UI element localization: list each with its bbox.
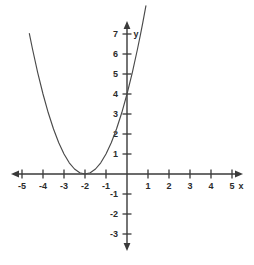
- y-tick-label: -2: [110, 209, 118, 219]
- x-tick-label: 3: [187, 181, 192, 191]
- x-tick-label: -2: [81, 181, 89, 191]
- y-tick-label: -1: [110, 189, 118, 199]
- x-axis-label: x: [238, 181, 243, 191]
- x-tick-label: -3: [60, 181, 68, 191]
- parabola-curve: [29, 6, 146, 174]
- x-tick-label: -4: [39, 181, 47, 191]
- x-axis-right-arrow-icon: [235, 171, 243, 178]
- x-axis-tick-labels: -5 -4 -3 -2 -1 1 2 3 4 5: [18, 181, 235, 191]
- x-axis-left-arrow-icon: [11, 171, 19, 178]
- y-tick-label: 7: [113, 29, 118, 39]
- y-tick-label: -3: [110, 229, 118, 239]
- y-tick-label: 1: [113, 149, 118, 159]
- y-tick-label: 3: [113, 109, 118, 119]
- x-tick-label: 2: [166, 181, 171, 191]
- x-tick-label: 5: [229, 181, 234, 191]
- graph-figure: -5 -4 -3 -2 -1 1 2 3 4 5 7 6 5 4 3 2 1 -…: [0, 0, 254, 265]
- x-tick-label: 1: [145, 181, 150, 191]
- y-axis-label: y: [133, 29, 138, 39]
- y-tick-label: 4: [113, 89, 118, 99]
- x-tick-label: 4: [208, 181, 213, 191]
- y-axis: [124, 21, 131, 251]
- x-tick-label: -5: [18, 181, 26, 191]
- y-tick-label: 5: [113, 69, 118, 79]
- y-axis-top-arrow-icon: [124, 21, 131, 29]
- coordinate-plane-plot: -5 -4 -3 -2 -1 1 2 3 4 5 7 6 5 4 3 2 1 -…: [0, 0, 254, 265]
- y-tick-label: 6: [113, 49, 118, 59]
- y-axis-bottom-arrow-icon: [124, 243, 131, 251]
- x-tick-label: -1: [102, 181, 110, 191]
